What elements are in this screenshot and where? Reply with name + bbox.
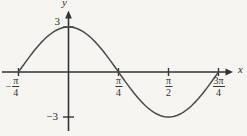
fraction-numerator: π bbox=[165, 76, 172, 87]
plot-canvas bbox=[0, 0, 247, 136]
fraction-numerator: π bbox=[12, 76, 19, 87]
fraction-denominator: 4 bbox=[12, 87, 19, 97]
x-axis-arrowhead bbox=[226, 69, 234, 76]
y-axis-arrowhead bbox=[65, 11, 72, 19]
x-tick-label: 3π4 bbox=[212, 76, 224, 97]
fraction-denominator: 4 bbox=[115, 87, 122, 97]
fraction: π4 bbox=[115, 76, 122, 97]
fraction-denominator: 2 bbox=[165, 87, 172, 97]
x-tick-label: π2 bbox=[165, 76, 172, 97]
x-axis-label: x bbox=[238, 64, 243, 74]
minus-sign: − bbox=[6, 82, 12, 91]
y-tick-label-3: 3 bbox=[44, 16, 60, 27]
fraction: 3π4 bbox=[212, 76, 224, 97]
fraction: π4 bbox=[12, 76, 19, 97]
fraction-numerator: π bbox=[115, 76, 122, 87]
fraction-numerator: 3π bbox=[212, 76, 224, 87]
x-tick-label: π4 bbox=[115, 76, 122, 97]
cosine-graph-figure: y x 3 −3 −π4π4π23π4 bbox=[0, 0, 247, 136]
fraction: π2 bbox=[165, 76, 172, 97]
y-tick-label-neg-3: −3 bbox=[40, 111, 58, 122]
fraction-denominator: 4 bbox=[215, 87, 222, 97]
x-tick-label: −π4 bbox=[6, 76, 20, 97]
y-axis-label: y bbox=[62, 0, 67, 7]
